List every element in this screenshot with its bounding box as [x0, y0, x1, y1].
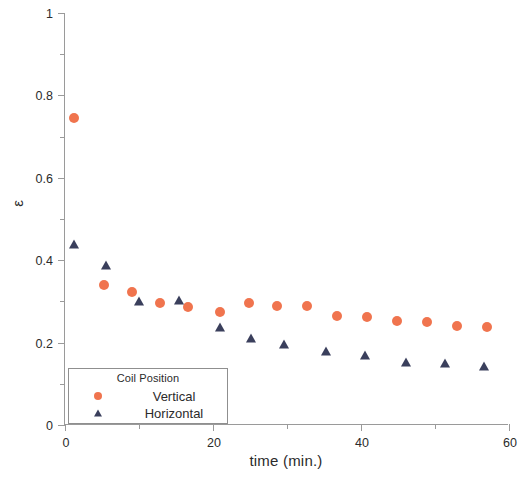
data-point-vertical — [392, 316, 402, 326]
y-axis-tick: 0.8 — [58, 95, 65, 96]
legend-item-label: Vertical — [124, 388, 224, 405]
data-point-vertical — [302, 301, 312, 311]
triangle-marker-icon — [94, 410, 102, 417]
data-point-horizontal — [215, 322, 225, 331]
data-point-vertical — [99, 280, 109, 290]
y-axis-tick: 0 — [58, 425, 65, 426]
y-axis-minor-tick — [60, 384, 65, 385]
y-axis-tick-label: 0.2 — [36, 336, 53, 352]
y-axis-minor-tick — [60, 301, 65, 302]
x-axis-tick: 40 — [361, 424, 362, 431]
x-axis-tick: 20 — [213, 424, 214, 431]
y-axis-tick: 1 — [58, 13, 65, 14]
x-axis-tick: 60 — [509, 424, 510, 431]
x-axis-tick-label: 20 — [207, 435, 221, 451]
data-point-vertical — [215, 307, 225, 317]
chart-legend: Coil PositionVerticalHorizontal — [68, 368, 228, 424]
data-point-horizontal — [101, 260, 111, 269]
x-axis-minor-tick — [287, 424, 288, 429]
y-axis-tick: 0.4 — [58, 260, 65, 261]
data-point-vertical — [332, 311, 342, 321]
y-axis-minor-tick — [60, 219, 65, 220]
data-point-vertical — [244, 298, 254, 308]
y-axis-tick-label: 0.6 — [36, 171, 53, 187]
data-point-vertical — [155, 298, 165, 308]
x-axis-tick-label: 40 — [355, 435, 369, 451]
legend-item-label: Horizontal — [124, 405, 224, 422]
x-axis-tick-label: 0 — [63, 435, 70, 451]
data-point-horizontal — [360, 350, 370, 359]
legend-title: Coil Position — [69, 372, 227, 384]
data-point-horizontal — [440, 359, 450, 368]
y-axis-tick-label: 0.4 — [36, 253, 53, 269]
y-axis-tick-label: 1 — [46, 6, 53, 22]
data-point-horizontal — [479, 361, 489, 370]
data-point-horizontal — [174, 295, 184, 304]
y-axis-minor-tick — [60, 137, 65, 138]
data-point-horizontal — [401, 358, 411, 367]
y-axis-tick-label: 0.8 — [36, 88, 53, 104]
data-point-horizontal — [321, 347, 331, 356]
data-point-horizontal — [279, 339, 289, 348]
data-point-horizontal — [134, 296, 144, 305]
data-point-vertical — [272, 301, 282, 311]
x-axis-minor-tick — [139, 424, 140, 429]
x-axis-tick-label: 60 — [503, 435, 517, 451]
plot-area: 00.20.40.60.810204060 — [64, 13, 508, 425]
x-axis-title: time (min.) — [64, 452, 508, 469]
data-point-vertical — [422, 317, 432, 327]
y-axis-tick-label: 0 — [46, 418, 53, 434]
legend-item-vertical[interactable]: Vertical — [69, 388, 227, 405]
y-axis-tick: 0.2 — [58, 343, 65, 344]
data-point-vertical — [452, 321, 462, 331]
data-point-vertical — [183, 302, 193, 312]
data-point-horizontal — [69, 239, 79, 248]
y-axis-tick: 0.6 — [58, 178, 65, 179]
data-point-vertical — [482, 322, 492, 332]
y-axis-title: ε — [9, 193, 26, 215]
y-axis-minor-tick — [60, 54, 65, 55]
legend-item-horizontal[interactable]: Horizontal — [69, 405, 227, 422]
x-axis-minor-tick — [435, 424, 436, 429]
circle-marker-icon — [94, 392, 102, 400]
scatter-chart-figure: 00.20.40.60.810204060 ε time (min.) Coil… — [0, 0, 519, 477]
x-axis-tick: 0 — [65, 424, 66, 431]
data-point-vertical — [69, 113, 79, 123]
data-point-vertical — [362, 312, 372, 322]
data-point-horizontal — [246, 334, 256, 343]
